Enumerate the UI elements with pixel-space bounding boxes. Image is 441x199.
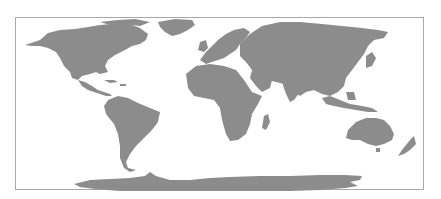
antarctica [74, 172, 362, 191]
tasmania [376, 148, 380, 152]
world-map [0, 0, 441, 199]
central-america [78, 80, 112, 96]
madagascar [262, 114, 270, 130]
south-america [104, 96, 160, 172]
australia [346, 118, 394, 146]
new-zealand [398, 136, 416, 156]
japan [366, 52, 376, 68]
greenland [158, 19, 195, 36]
caribbean [104, 80, 126, 86]
north-america [25, 22, 148, 80]
africa [186, 64, 262, 141]
british-isles [198, 40, 208, 52]
